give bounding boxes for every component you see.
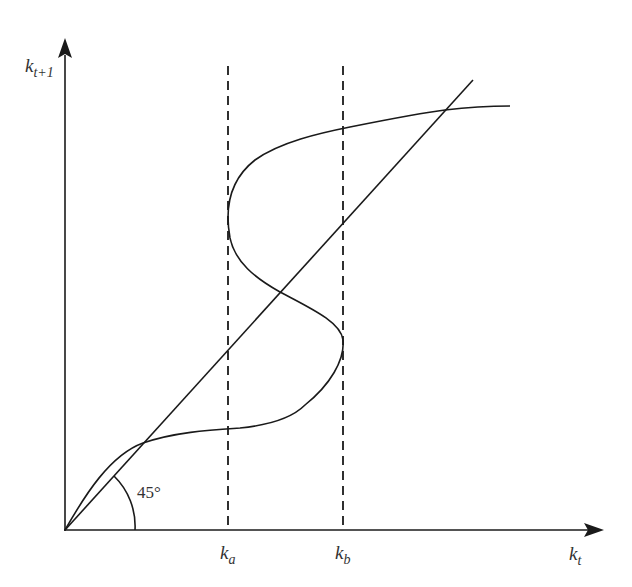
accumulation-curve [65, 106, 510, 530]
threshold-label-kb: kb [335, 542, 350, 567]
x-axis-label: kt [569, 543, 582, 568]
forty-five-degree-line [65, 80, 473, 530]
y-axis-label: kt+1 [25, 55, 54, 80]
threshold-label-ka: ka [220, 542, 235, 567]
angle-arc [114, 476, 135, 530]
angle-label: 45° [137, 483, 161, 502]
phase-diagram: kt+1 45° ka kb kt [0, 0, 632, 587]
